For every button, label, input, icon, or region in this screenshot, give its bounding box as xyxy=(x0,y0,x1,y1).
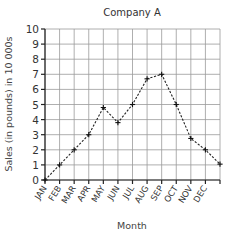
y-tick-label: 5 xyxy=(32,99,39,111)
data-point-marker xyxy=(159,72,164,77)
y-tick-label: 7 xyxy=(32,68,39,80)
axes xyxy=(41,29,220,184)
x-tick-label: DEC xyxy=(191,184,209,204)
y-tick-label: 4 xyxy=(32,114,39,126)
y-axis-label: Sales (in pounds) in 10 000s xyxy=(3,36,14,171)
y-tick-label: 6 xyxy=(32,83,39,95)
data-point-marker xyxy=(144,76,149,81)
y-tick-label: 1 xyxy=(32,159,39,171)
y-tick-label: 10 xyxy=(26,23,39,35)
x-tick-label: MAY xyxy=(89,183,107,204)
y-tick-label: 0 xyxy=(32,174,39,186)
x-tick-label: MAR xyxy=(59,184,78,206)
data-point-marker xyxy=(174,102,179,107)
x-tick-label: JUN xyxy=(105,184,122,203)
x-tick-label: JAN xyxy=(32,184,49,202)
chart-title: Company A xyxy=(103,7,161,18)
y-tick-label: 8 xyxy=(32,53,39,65)
x-tick-label: AUG xyxy=(132,184,150,205)
x-tick-label: APR xyxy=(75,184,92,204)
y-tick-label: 2 xyxy=(32,144,39,156)
line-chart: Company A 012345678910 JANFEBMARAPRMAYJU… xyxy=(0,0,232,236)
x-tick-label: NOV xyxy=(176,184,194,205)
data-point-marker xyxy=(42,177,47,182)
y-tick-labels: 012345678910 xyxy=(26,23,40,186)
x-axis-label: Month xyxy=(117,220,147,231)
x-tick-labels: JANFEBMARAPRMAYJUNJULAUGSEPOCTNOVDEC xyxy=(32,183,209,205)
data-point-marker xyxy=(86,132,91,137)
data-point-marker xyxy=(130,102,135,107)
y-tick-label: 9 xyxy=(32,38,39,50)
y-tick-label: 3 xyxy=(32,129,39,141)
